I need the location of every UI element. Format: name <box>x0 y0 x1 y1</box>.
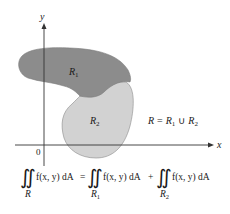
double-integral-icon: ∬ <box>87 166 103 189</box>
x-axis-label: x <box>216 139 222 150</box>
double-integral-icon: ∬ <box>156 166 172 189</box>
lower-limit-r1: R1 <box>90 189 100 200</box>
x-axis-arrow-icon <box>208 143 214 148</box>
region-diagram: y x 0 R1 R2 R=R1∪R2 ∬ f(x, y) dA = ∬ f(x… <box>0 0 230 214</box>
double-integral-icon: ∬ <box>20 166 36 189</box>
y-axis-label: y <box>39 11 45 22</box>
integrand-2: f(x, y) dA <box>103 172 141 183</box>
origin-label: 0 <box>36 147 41 157</box>
lower-limit-r2: R2 <box>159 189 169 200</box>
y-axis-arrow-icon <box>42 23 47 29</box>
union-equation: R=R1∪R2 <box>147 115 198 128</box>
lower-limit-r: R <box>24 189 31 199</box>
equals-sign: = <box>80 172 85 182</box>
integrand-3: f(x, y) dA <box>172 172 210 183</box>
plus-sign: + <box>148 172 153 182</box>
integral-formula: ∬ f(x, y) dA = ∬ f(x, y) dA + ∬ f(x, y) … <box>20 166 210 200</box>
integrand-1: f(x, y) dA <box>36 172 74 183</box>
